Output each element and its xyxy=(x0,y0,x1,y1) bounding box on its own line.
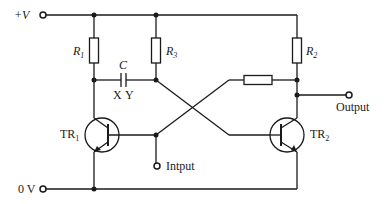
feedback-resistor xyxy=(244,76,272,85)
resistor-r3 xyxy=(152,15,161,80)
plate-y-label: Y xyxy=(125,88,134,102)
transistor-tr2 xyxy=(270,118,304,189)
r2-label: R2 xyxy=(305,44,317,60)
tr2-label: TR2 xyxy=(310,127,329,143)
capacitor-label: C xyxy=(119,58,128,72)
input-terminal[interactable] xyxy=(154,163,160,169)
r3-label: R3 xyxy=(165,44,177,60)
input-line xyxy=(154,133,161,170)
supply-terminal[interactable] xyxy=(40,12,46,18)
plate-x-label: X xyxy=(113,88,122,102)
r1-label: R1 xyxy=(72,44,84,60)
input-label: Intput xyxy=(166,159,195,173)
circuit-diagram: +V R1 R3 R2 C X Y xyxy=(0,0,386,204)
cross-coupling xyxy=(156,76,300,136)
supply-label: +V xyxy=(14,8,31,22)
ground-terminal[interactable] xyxy=(40,186,46,192)
output-line xyxy=(295,92,353,98)
resistor-r1 xyxy=(90,15,99,80)
tr1-label: TR1 xyxy=(60,127,79,143)
output-terminal[interactable] xyxy=(346,92,352,98)
output-label: Output xyxy=(336,100,370,114)
ground-rail xyxy=(40,186,297,192)
ground-label: 0 V xyxy=(18,182,36,196)
capacitor-c xyxy=(92,73,159,87)
supply-rail xyxy=(40,12,297,38)
